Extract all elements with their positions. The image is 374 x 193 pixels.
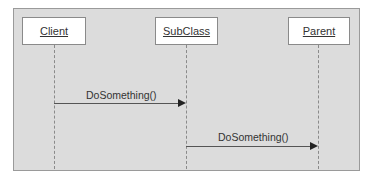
lifeline-parent bbox=[318, 45, 319, 169]
message-arrow-2 bbox=[186, 146, 310, 147]
message-label-1: DoSomething() bbox=[86, 89, 157, 101]
participant-subclass: SubClass bbox=[155, 17, 218, 45]
participant-client: Client bbox=[22, 17, 86, 45]
lifeline-client bbox=[54, 45, 55, 169]
participant-parent: Parent bbox=[288, 17, 350, 45]
arrowhead-icon bbox=[178, 99, 186, 107]
arrowhead-icon bbox=[310, 142, 318, 150]
message-arrow-1 bbox=[54, 103, 178, 104]
message-label-2: DoSomething() bbox=[218, 131, 289, 143]
lifeline-subclass bbox=[186, 45, 187, 169]
